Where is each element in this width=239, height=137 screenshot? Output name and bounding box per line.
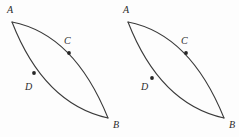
right-point-label-c: C: [181, 35, 188, 46]
right-upper-arc-A-C-B: [128, 22, 224, 118]
left-vertex-label-b: B: [113, 119, 119, 130]
right-point-c-dot: [184, 51, 188, 55]
diagram-canvas: A B C D A B C D: [0, 0, 239, 137]
right-point-label-d: D: [140, 81, 149, 92]
left-vertex-label-a: A: [6, 4, 14, 15]
right-lower-arc-A-D-B: [128, 22, 224, 118]
right-vertex-label-b: B: [229, 119, 235, 130]
right-vertex-label-a: A: [122, 4, 130, 15]
left-lens-figure: A B C D: [6, 4, 119, 130]
right-point-d-dot: [150, 76, 154, 80]
left-point-c-dot: [67, 51, 71, 55]
left-point-label-d: D: [24, 81, 33, 92]
left-upper-arc-A-C-B: [12, 22, 108, 118]
geometry-diagram: A B C D A B C D: [0, 0, 239, 137]
left-lower-arc-A-D-B: [12, 22, 108, 118]
left-point-d-dot: [32, 71, 36, 75]
left-point-label-c: C: [64, 35, 71, 46]
right-lens-figure: A B C D: [122, 4, 235, 130]
